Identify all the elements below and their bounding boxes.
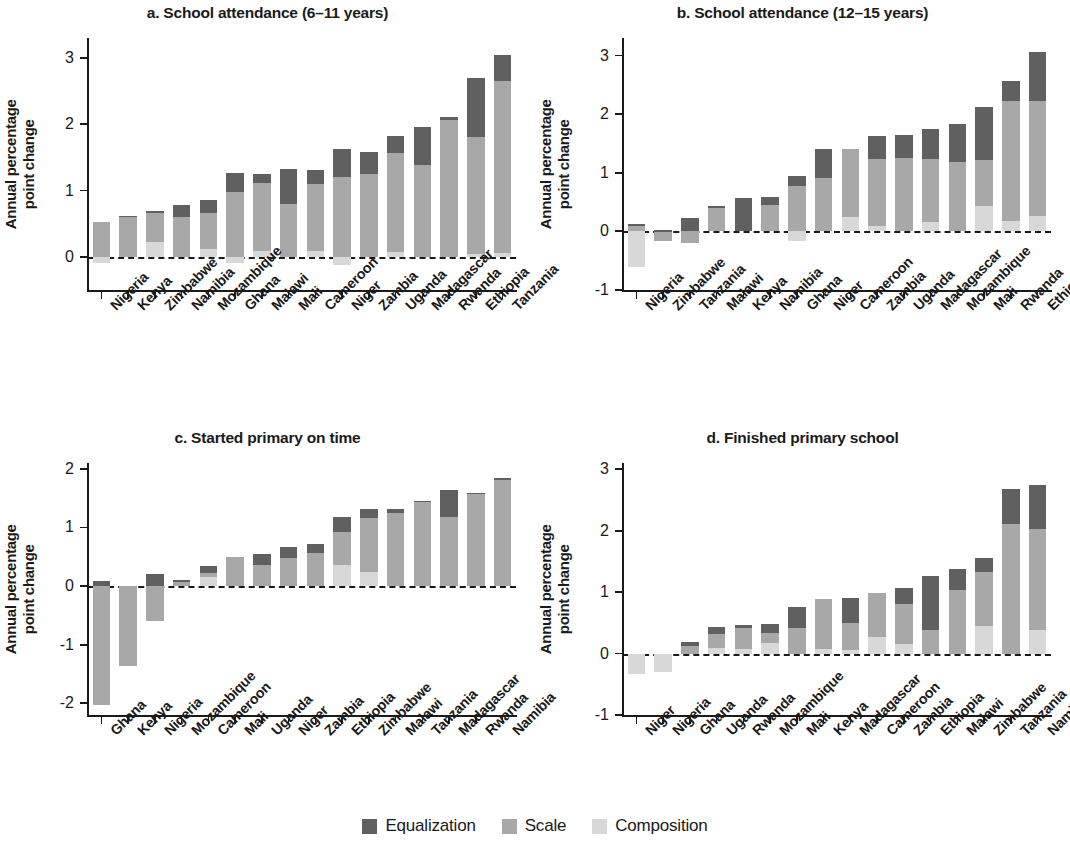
y-axis-tick-label: -1 bbox=[34, 637, 74, 653]
x-axis-label: Namibia bbox=[776, 302, 787, 313]
legend-item-scale[interactable]: Scale bbox=[502, 816, 567, 836]
bar[interactable] bbox=[146, 463, 164, 715]
bar-segment-scale bbox=[708, 634, 726, 648]
bar-segment-equalization bbox=[628, 224, 646, 226]
bar[interactable] bbox=[173, 463, 191, 715]
bar[interactable] bbox=[467, 463, 485, 715]
bar[interactable] bbox=[1029, 463, 1047, 715]
x-axis-label: Zambia bbox=[910, 727, 921, 738]
bar-segment-composition bbox=[387, 252, 405, 257]
bar-segment-scale bbox=[628, 226, 646, 232]
x-axis-label: Niger bbox=[830, 302, 841, 313]
x-axis-tick bbox=[903, 716, 904, 724]
bar[interactable] bbox=[788, 38, 806, 290]
y-axis-tick-label: 3 bbox=[34, 50, 74, 66]
bar-segment-equalization bbox=[1002, 489, 1020, 523]
bar[interactable] bbox=[868, 463, 886, 715]
bar[interactable] bbox=[922, 38, 940, 290]
bar[interactable] bbox=[440, 38, 458, 290]
bar[interactable] bbox=[93, 463, 111, 715]
bar[interactable] bbox=[387, 463, 405, 715]
bar[interactable] bbox=[815, 38, 833, 290]
bar[interactable] bbox=[93, 38, 111, 290]
x-axis-tick bbox=[154, 716, 155, 724]
y-axis-tick bbox=[615, 113, 622, 115]
y-axis-tick-label: 2 bbox=[34, 461, 74, 477]
bar[interactable] bbox=[387, 38, 405, 290]
legend-item-equalization[interactable]: Equalization bbox=[362, 816, 475, 836]
plot-area: -10123NigeriaZimbabweTanzaniaMalawiKenya… bbox=[623, 38, 1051, 290]
bar[interactable] bbox=[146, 38, 164, 290]
bar[interactable] bbox=[949, 38, 967, 290]
bar[interactable] bbox=[654, 463, 672, 715]
bar[interactable] bbox=[414, 38, 432, 290]
bar-segment-composition bbox=[1029, 630, 1047, 653]
bar-segment-composition bbox=[333, 565, 351, 586]
x-axis-label: Malawi bbox=[963, 727, 974, 738]
bar-segment-scale bbox=[815, 178, 833, 231]
bar[interactable] bbox=[1002, 463, 1020, 715]
bar[interactable] bbox=[119, 463, 137, 715]
x-axis-label: Tanzania bbox=[509, 302, 520, 313]
bar[interactable] bbox=[922, 463, 940, 715]
bar[interactable] bbox=[788, 463, 806, 715]
legend-item-composition[interactable]: Composition bbox=[592, 816, 707, 836]
plot-area: -10123NigerNigeriaGhanaUgandaRwandaMozam… bbox=[623, 463, 1051, 715]
bar[interactable] bbox=[681, 38, 699, 290]
y-axis-tick-label: 2 bbox=[569, 106, 609, 122]
bar-segment-equalization bbox=[440, 490, 458, 517]
bar[interactable] bbox=[414, 463, 432, 715]
bar-segment-equalization bbox=[226, 173, 244, 192]
bar[interactable] bbox=[761, 463, 779, 715]
bar-segment-scale bbox=[360, 174, 378, 257]
bar[interactable] bbox=[735, 38, 753, 290]
bar-segment-scale bbox=[253, 183, 271, 251]
bar-segment-equalization bbox=[654, 230, 672, 232]
x-axis-tick bbox=[234, 291, 235, 299]
bar[interactable] bbox=[628, 463, 646, 715]
bar[interactable] bbox=[307, 38, 325, 290]
x-axis-tick bbox=[154, 291, 155, 299]
bar[interactable] bbox=[761, 38, 779, 290]
bar-segment-equalization bbox=[200, 566, 218, 572]
bar[interactable] bbox=[226, 38, 244, 290]
bar[interactable] bbox=[333, 38, 351, 290]
bar[interactable] bbox=[628, 38, 646, 290]
bar-segment-scale bbox=[387, 513, 405, 586]
bar[interactable] bbox=[949, 463, 967, 715]
bar[interactable] bbox=[681, 463, 699, 715]
bar[interactable] bbox=[975, 463, 993, 715]
x-axis-tick bbox=[315, 291, 316, 299]
bar[interactable] bbox=[708, 38, 726, 290]
y-axis-tick bbox=[615, 230, 622, 232]
bar-segment-equalization bbox=[440, 117, 458, 120]
bar[interactable] bbox=[868, 38, 886, 290]
bar-segment-composition bbox=[895, 644, 913, 653]
x-axis-tick bbox=[716, 716, 717, 724]
bar[interactable] bbox=[307, 463, 325, 715]
bar[interactable] bbox=[708, 463, 726, 715]
bar[interactable] bbox=[360, 463, 378, 715]
bar[interactable] bbox=[200, 38, 218, 290]
bar[interactable] bbox=[333, 463, 351, 715]
y-axis-tick-label: 3 bbox=[569, 48, 609, 64]
x-axis-label: Zimbabwe bbox=[375, 727, 386, 738]
bar[interactable] bbox=[735, 463, 753, 715]
y-axis-tick-label: 1 bbox=[34, 519, 74, 535]
y-axis-tick bbox=[80, 123, 87, 125]
bar[interactable] bbox=[654, 38, 672, 290]
x-axis-tick bbox=[181, 716, 182, 724]
bar[interactable] bbox=[119, 38, 137, 290]
bar[interactable] bbox=[494, 38, 512, 290]
y-axis-title-line2: point change bbox=[20, 59, 38, 269]
bar[interactable] bbox=[173, 38, 191, 290]
bar[interactable] bbox=[842, 38, 860, 290]
bar[interactable] bbox=[440, 463, 458, 715]
x-axis-label: Mozambique bbox=[963, 302, 974, 313]
x-axis-label: Zimbabwe bbox=[990, 727, 1001, 738]
bar[interactable] bbox=[200, 463, 218, 715]
panel-a: a. School attendance (6–11 years)Annual … bbox=[0, 0, 535, 418]
bar-segment-composition bbox=[226, 257, 244, 264]
bar-segment-equalization bbox=[735, 625, 753, 629]
bar[interactable] bbox=[280, 463, 298, 715]
